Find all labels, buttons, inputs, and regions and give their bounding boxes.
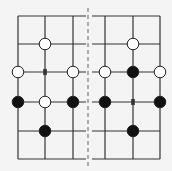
right-board [92, 16, 166, 159]
white-stone [12, 66, 24, 78]
white-stone [99, 66, 111, 78]
black-stone [127, 66, 139, 78]
black-stone [39, 125, 51, 137]
black-stone [154, 96, 166, 108]
white-stone [127, 38, 139, 50]
black-stone [127, 125, 139, 137]
white-stone [67, 66, 79, 78]
go-diagram [0, 0, 172, 171]
x-marker-icon [43, 69, 47, 75]
left-board [12, 16, 86, 159]
black-stone [67, 96, 79, 108]
white-stone [39, 96, 51, 108]
x-marker-icon [131, 99, 135, 105]
white-stone [39, 38, 51, 50]
black-stone [12, 96, 24, 108]
black-stone [99, 96, 111, 108]
white-stone [154, 66, 166, 78]
